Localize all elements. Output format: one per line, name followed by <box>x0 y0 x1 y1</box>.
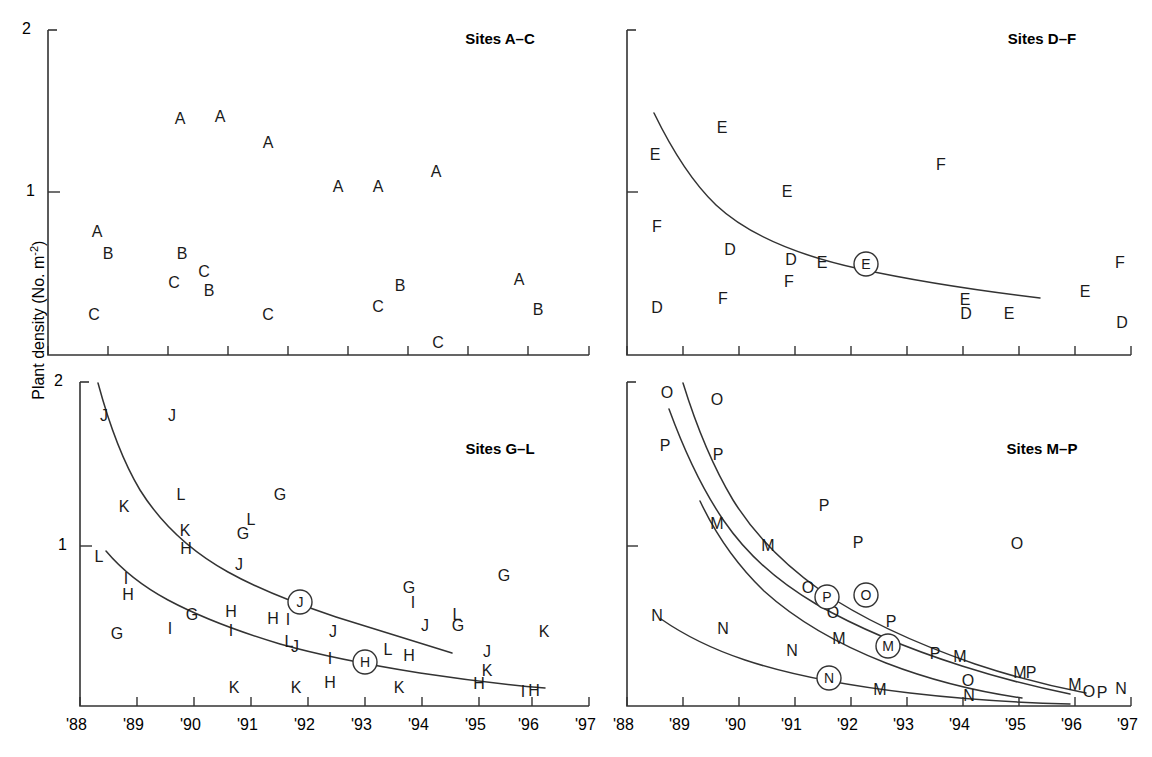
svg-text:A: A <box>333 178 344 195</box>
svg-text:H: H <box>180 540 192 557</box>
panel-a-c-points: A A A A A A A A B B B B B C C C C C C <box>88 108 543 351</box>
svg-text:G: G <box>498 567 510 584</box>
svg-text:D: D <box>785 251 797 268</box>
panel-d-f-title: Sites D–F <box>962 30 1122 47</box>
panel-a-c-axes <box>48 30 589 355</box>
svg-text:H: H <box>403 647 415 664</box>
svg-text:G: G <box>111 625 123 642</box>
svg-text:A: A <box>514 271 525 288</box>
svg-text:E: E <box>1004 305 1015 322</box>
panel-d-f: E E E E E E E F F F F F D D D D D E <box>627 30 1131 355</box>
svg-text:E: E <box>650 146 661 163</box>
svg-text:J: J <box>483 643 491 660</box>
svg-text:J: J <box>329 623 337 640</box>
svg-text:P: P <box>853 534 864 551</box>
panel-m-p-circled-marker-p: P <box>815 585 839 609</box>
xtick-label: '94 <box>949 716 970 734</box>
svg-text:C: C <box>372 298 384 315</box>
svg-text:K: K <box>229 679 240 696</box>
xtick-label: '95 <box>1005 716 1026 734</box>
xtick-label: '91 <box>237 716 258 734</box>
svg-text:E: E <box>1080 283 1091 300</box>
svg-text:K: K <box>180 522 191 539</box>
xtick-label: '88 <box>613 716 634 734</box>
svg-text:J: J <box>235 556 243 573</box>
svg-text:E: E <box>817 254 828 271</box>
panel-m-p-circled-marker-n: N <box>817 666 841 690</box>
svg-text:C: C <box>88 306 100 323</box>
panel-d-f-points: E E E E E E E F F F F F D D D D D <box>650 119 1128 331</box>
svg-text:P: P <box>819 497 830 514</box>
xtick-label: '92 <box>294 716 315 734</box>
svg-text:M: M <box>710 515 723 532</box>
svg-text:M: M <box>832 630 845 647</box>
svg-text:P: P <box>822 589 831 605</box>
svg-text:B: B <box>204 282 215 299</box>
panel-g-l-xticks <box>80 697 589 706</box>
panel-g-l: J J J J J J J K K K K K K K L L L L L L <box>80 382 589 706</box>
svg-text:P: P <box>1097 684 1108 701</box>
panel-d-f-axes <box>627 30 1131 355</box>
panel-m-p-title: Sites M–P <box>962 440 1122 457</box>
svg-text:O: O <box>711 391 723 408</box>
svg-text:M: M <box>1068 676 1081 693</box>
svg-text:F: F <box>1115 254 1125 271</box>
xtick-label: '93 <box>351 716 372 734</box>
svg-text:K: K <box>119 498 130 515</box>
svg-text:L: L <box>384 641 393 658</box>
svg-text:D: D <box>960 305 972 322</box>
panel-d-f-circled-marker-e: E <box>854 252 878 276</box>
panel-g-l-title: Sites G–L <box>420 440 580 457</box>
svg-text:B: B <box>395 277 406 294</box>
panel-a-c-ytick-label-2: 2 <box>22 20 31 38</box>
svg-text:J: J <box>297 594 304 610</box>
svg-text:B: B <box>177 245 188 262</box>
svg-text:K: K <box>539 623 550 640</box>
svg-text:L: L <box>95 548 104 565</box>
xtick-label: '89 <box>123 716 144 734</box>
panel-g-l-circled-marker-j: J <box>288 590 312 614</box>
svg-text:G: G <box>237 525 249 542</box>
svg-text:I: I <box>411 594 415 611</box>
panel-a-c: A A A A A A A A B B B B B C C C C C C <box>48 30 589 355</box>
svg-text:N: N <box>1115 680 1127 697</box>
svg-text:N: N <box>786 642 798 659</box>
svg-text:M: M <box>873 681 886 698</box>
svg-text:L: L <box>285 633 294 650</box>
figure-canvas: A A A A A A A A B B B B B C C C C C C <box>0 0 1152 757</box>
svg-text:J: J <box>421 617 429 634</box>
xtick-label: '95 <box>465 716 486 734</box>
panel-g-l-ytick-label-1: 1 <box>58 536 67 554</box>
xtick-label: '91 <box>781 716 802 734</box>
svg-text:I: I <box>521 683 525 700</box>
svg-text:I: I <box>124 570 128 587</box>
svg-text:A: A <box>215 108 226 125</box>
svg-text:F: F <box>652 218 662 235</box>
svg-text:P: P <box>1026 664 1037 681</box>
svg-text:H: H <box>324 674 336 691</box>
svg-text:A: A <box>373 178 384 195</box>
panel-g-l-circled-marker-h: H <box>353 650 377 674</box>
svg-text:O: O <box>661 384 673 401</box>
svg-text:G: G <box>274 486 286 503</box>
svg-text:H: H <box>473 675 485 692</box>
panel-a-c-xticks <box>48 346 589 355</box>
svg-text:E: E <box>861 256 870 272</box>
svg-text:H: H <box>267 610 279 627</box>
svg-text:P: P <box>660 437 671 454</box>
svg-text:N: N <box>963 687 975 704</box>
svg-text:I: I <box>168 620 172 637</box>
panel-m-p-axes <box>627 382 1131 706</box>
xtick-label: '89 <box>669 716 690 734</box>
svg-text:N: N <box>717 620 729 637</box>
svg-text:A: A <box>92 223 103 240</box>
svg-text:O: O <box>802 579 814 596</box>
svg-text:I: I <box>328 650 332 667</box>
xtick-label: '97 <box>1117 716 1138 734</box>
panel-a-c-ytick-label-1: 1 <box>26 182 35 200</box>
svg-text:B: B <box>533 301 544 318</box>
svg-text:A: A <box>263 134 274 151</box>
xtick-label: '88 <box>66 716 87 734</box>
panel-m-p: O O O O O O O P P P P P P P M M M M M M <box>627 382 1131 706</box>
svg-text:D: D <box>1116 314 1128 331</box>
